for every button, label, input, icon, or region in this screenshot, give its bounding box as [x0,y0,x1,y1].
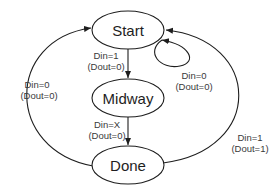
label-start-to-midway: Din=1 (Dout=0) [87,50,124,72]
state-diagram: Start Midway Done Din=1 (Dout=0) Din=0 (… [0,0,280,193]
edge-output: (Dout=0) [175,81,212,92]
edge-output: (Dout=0) [20,90,57,101]
state-midway: Midway [92,79,164,117]
edge-input: Din=1 [93,50,118,61]
edge-input: Din=0 [181,70,206,81]
edge-output: (Dout=0) [87,61,124,72]
state-label: Midway [103,90,154,107]
edge-input: Din=0 [24,79,49,90]
edge-input: Din=X [94,119,121,130]
label-start-self-loop: Din=0 (Dout=0) [175,70,212,92]
edge-start-self-loop [155,40,190,67]
label-done-to-start-left: Din=0 (Dout=0) [20,79,57,101]
state-start: Start [92,11,164,49]
edge-done-to-start-right [163,30,239,163]
edge-output: (Dout=1) [231,143,268,154]
edge-input: Din=1 [237,132,262,143]
state-label: Done [110,157,146,174]
label-midway-to-done: Din=X (Dout=0) [88,119,125,141]
state-label: Start [112,22,145,39]
state-done: Done [92,146,164,184]
label-done-to-start-right: Din=1 (Dout=1) [231,132,268,154]
edge-output: (Dout=0) [88,130,125,141]
